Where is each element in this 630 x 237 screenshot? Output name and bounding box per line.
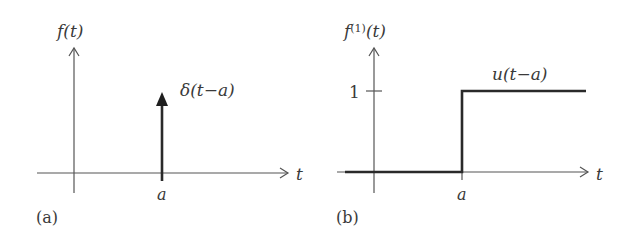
impulse-arrowhead-icon [156,92,168,106]
step-function-curve [345,91,586,172]
panel-b: f(1)(t) 1 u(t−a) t a (b) [336,21,603,227]
x-axis-label-b: t [596,164,603,184]
step-label: u(t−a) [492,64,547,84]
panel-caption-a: (a) [36,208,58,227]
panel-a: f(t) δ(t−a) t a (a) [36,21,303,227]
panel-caption-b: (b) [336,208,359,227]
y-axis-label-a: f(t) [55,21,83,41]
y-axis-label-b: f(1)(t) [342,21,386,41]
figure: f(t) δ(t−a) t a (a) f(1)(t) 1 u(t−a) t a… [0,0,630,237]
y-tick-label-1: 1 [349,82,360,102]
impulse-label: δ(t−a) [180,80,235,100]
x-tick-label-a: a [157,185,167,204]
x-axis-label-a: t [296,164,303,184]
x-tick-label-b: a [457,185,467,204]
